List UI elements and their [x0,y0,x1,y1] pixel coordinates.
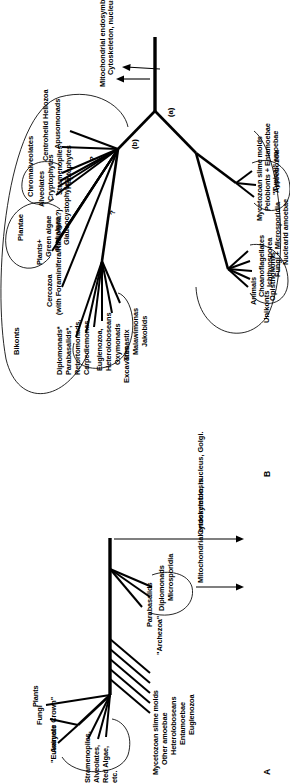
node-label-a: (a) [166,108,175,117]
label-typical-amoebae: "Typical" amoebae [272,131,280,195]
label-plants-a: Plants [32,685,40,707]
uncertainty-mark-1: ? [108,210,117,215]
panel-a-tree-svg [0,483,290,783]
rotated-figure-root: A [0,0,290,783]
uncertainty-mark-2: ? [88,156,97,161]
group-bikonts: Bikonts [12,327,21,355]
group-plantae: Plantae [16,214,25,241]
panel-b: B [0,0,290,483]
label-euglenozoa-a: Euglenozoa [188,695,196,735]
label-carpediemonas: Carpediemonas [83,321,91,375]
node-label-b: (b) [130,139,139,149]
group-chromalveolates: Chromalveolates [26,136,35,197]
label-centrohelid-heliozoa: Centrohelid Heliozoa [42,89,50,161]
label-parabasalids-a: Parabasalids [146,583,154,627]
panel-a: A [0,483,290,783]
label-fungi-a: Fungi [36,705,44,725]
label-haptophytes: Haptophytes [65,145,73,189]
label-animals-a: Animals [50,725,58,753]
label-apusomonads: Apusomonads [54,99,62,149]
label-microsporidia-a: Microsporidia [167,554,175,601]
event-cytoskeleton-nucleus-golgi-b: Cytoskeleton, nucleus, Golgi. [106,0,115,75]
label-nuclearid-amoebae: Nuclearid amoebae [282,199,290,265]
label-archezoa-bracket: "Archezoa" [156,616,164,655]
label-jakobids: Jakobids [141,316,149,347]
label-etc-a: etc. [111,771,119,783]
figure-canvas: A [0,0,290,783]
